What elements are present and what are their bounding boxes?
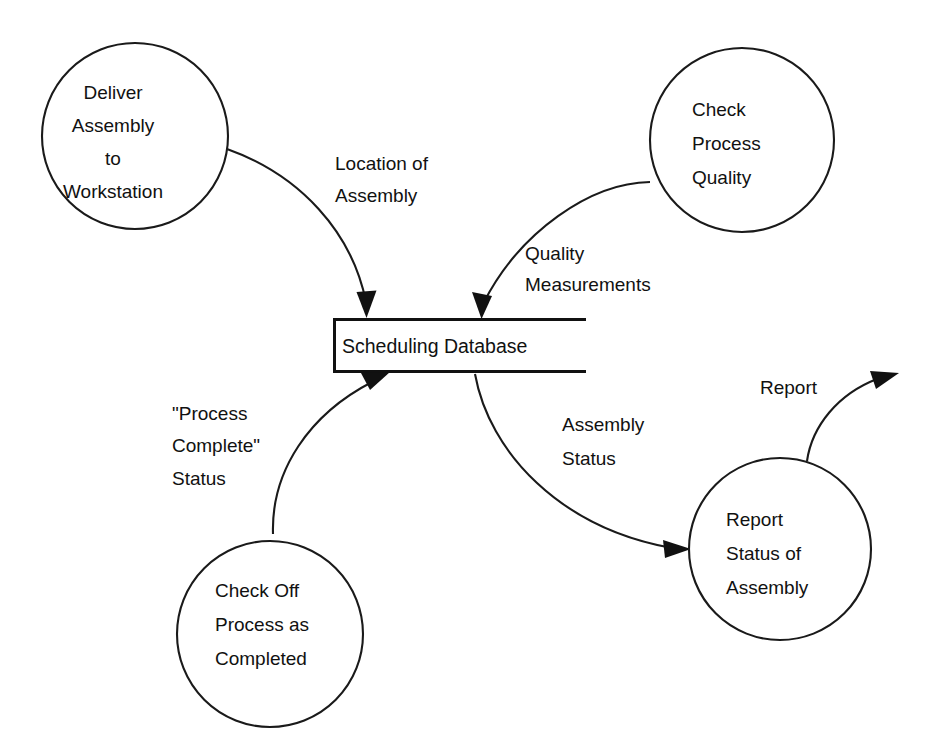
flow-quality-measurements[interactable]: Quality Measurements — [472, 182, 651, 319]
flow-report-label: Report — [760, 377, 818, 398]
process-deliver-assembly-label-line-2: to — [105, 148, 121, 169]
flow-assembly-status[interactable]: Assembly Status — [475, 374, 691, 558]
process-report-status-label-line-2: Assembly — [726, 577, 809, 598]
process-deliver-assembly-label-line-3: Workstation — [63, 181, 163, 202]
flow-quality-measurements-label-line-1: Measurements — [525, 274, 651, 295]
diagram-canvas: Location of Assembly Quality Measurement… — [0, 0, 929, 755]
flow-process-complete-status-arrowhead — [361, 372, 390, 390]
flow-report-arrowhead — [870, 371, 899, 389]
flow-process-complete-status[interactable]: "Process Complete" Status — [172, 372, 390, 534]
flow-report-line — [807, 379, 877, 461]
flow-process-complete-status-line — [273, 382, 372, 534]
process-report-status[interactable]: Report Status of Assembly — [689, 458, 871, 640]
flow-process-complete-status-label-line-2: Status — [172, 468, 226, 489]
data-store-scheduling-database[interactable]: Scheduling Database — [333, 318, 586, 373]
process-check-process-quality-label-line-1: Process — [692, 133, 761, 154]
flow-location-of-assembly[interactable]: Location of Assembly — [227, 149, 429, 318]
process-report-status-label-line-1: Status of — [726, 543, 802, 564]
process-deliver-assembly-label-line-0: Deliver — [83, 82, 143, 103]
flow-assembly-status-label-line-1: Status — [562, 448, 616, 469]
flow-location-of-assembly-label-line-1: Assembly — [335, 185, 418, 206]
flow-quality-measurements-arrowhead — [472, 292, 492, 319]
process-check-off-process-label-line-2: Completed — [215, 648, 307, 669]
process-check-process-quality-label-line-0: Check — [692, 99, 746, 120]
data-flow-diagram: Location of Assembly Quality Measurement… — [0, 0, 929, 755]
flow-assembly-status-label-line-0: Assembly — [562, 414, 645, 435]
process-check-off-process-label-line-0: Check Off — [215, 580, 300, 601]
flow-process-complete-status-label-line-1: Complete" — [172, 435, 260, 456]
process-deliver-assembly[interactable]: Deliver Assembly to Workstation — [42, 43, 228, 229]
process-check-process-quality[interactable]: Check Process Quality — [650, 48, 834, 232]
process-check-off-process[interactable]: Check Off Process as Completed — [177, 541, 363, 727]
flow-process-complete-status-label-line-0: "Process — [172, 403, 247, 424]
flow-location-of-assembly-label-line-0: Location of — [335, 153, 429, 174]
process-check-process-quality-label-line-2: Quality — [692, 167, 752, 188]
process-check-off-process-label-line-1: Process as — [215, 614, 309, 635]
flow-report[interactable]: Report — [760, 371, 899, 461]
process-deliver-assembly-label-line-1: Assembly — [72, 115, 155, 136]
flow-quality-measurements-label-line-0: Quality — [525, 243, 585, 264]
flow-location-of-assembly-arrowhead — [357, 291, 377, 319]
data-store-label: Scheduling Database — [342, 335, 527, 357]
flow-assembly-status-arrowhead — [663, 540, 691, 558]
process-report-status-label-line-0: Report — [726, 509, 784, 530]
